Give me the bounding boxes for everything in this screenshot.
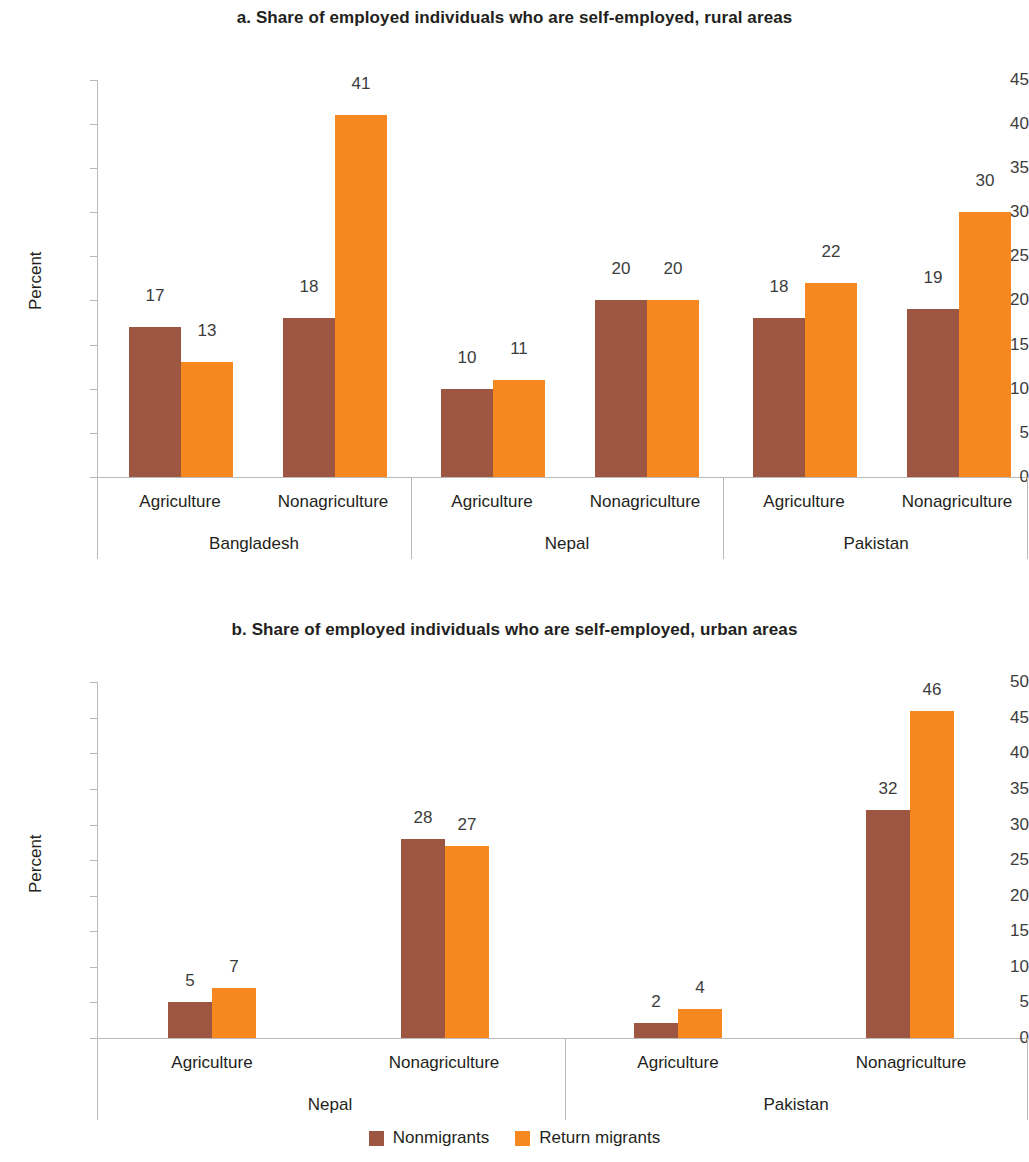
legend-swatch-icon: [515, 1131, 530, 1146]
bar-value-label: 20: [664, 259, 683, 279]
group-separator: [97, 1038, 98, 1120]
bar-nonmigrants: [753, 318, 805, 477]
group-separator: [1027, 477, 1028, 559]
y-tick-mark: [90, 477, 97, 478]
legend-label: Nonmigrants: [393, 1128, 489, 1148]
bar-nonmigrants: [595, 300, 647, 477]
bar-value-label: 46: [923, 680, 942, 700]
bar-nonmigrants: [441, 389, 493, 477]
group-label: Pakistan: [843, 534, 908, 554]
bars-container-a: [0, 0, 1029, 477]
bar-value-label: 2: [651, 992, 660, 1012]
panel-urban: b. Share of employed individuals who are…: [0, 605, 1029, 1105]
bar-return-migrants: [493, 380, 545, 477]
category-label: Nonagriculture: [856, 1053, 967, 1073]
bar-return-migrants: [335, 115, 387, 477]
category-label: Nonagriculture: [278, 492, 389, 512]
bar-nonmigrants: [866, 810, 910, 1038]
bar-nonmigrants: [907, 309, 959, 477]
bar-value-label: 22: [822, 242, 841, 262]
bar-value-label: 13: [198, 321, 217, 341]
bar-return-migrants: [647, 300, 699, 477]
group-separator: [723, 477, 724, 559]
bars-container-b: [0, 605, 1029, 1038]
group-separator: [411, 477, 412, 559]
bar-return-migrants: [212, 988, 256, 1038]
x-axis-baseline-b: [97, 1038, 1028, 1039]
category-label: Agriculture: [763, 492, 844, 512]
bar-value-label: 18: [300, 277, 319, 297]
category-label: Nonagriculture: [590, 492, 701, 512]
group-separator: [565, 1038, 566, 1120]
y-tick-mark: [90, 1038, 97, 1039]
bar-value-label: 32: [879, 779, 898, 799]
group-label: Pakistan: [763, 1095, 828, 1115]
bar-nonmigrants: [634, 1023, 678, 1038]
bar-nonmigrants: [401, 839, 445, 1038]
group-label: Nepal: [308, 1095, 352, 1115]
bar-value-label: 11: [510, 339, 528, 359]
plot-area-b: Percent 0 5 10 15 20 25 30 35 40 45 50: [0, 605, 1029, 1105]
bar-value-label: 4: [695, 978, 704, 998]
legend-swatch-icon: [369, 1131, 384, 1146]
legend-label: Return migrants: [539, 1128, 660, 1148]
bar-value-label: 30: [976, 171, 995, 191]
category-label: Agriculture: [637, 1053, 718, 1073]
bar-value-label: 5: [185, 971, 194, 991]
bar-nonmigrants: [283, 318, 335, 477]
category-label: Agriculture: [171, 1053, 252, 1073]
bar-nonmigrants: [129, 327, 181, 477]
x-axis-baseline-a: [97, 477, 1028, 478]
bar-nonmigrants: [168, 1002, 212, 1038]
bar-value-label: 28: [414, 808, 433, 828]
group-label: Bangladesh: [209, 534, 299, 554]
bar-value-label: 18: [770, 277, 789, 297]
bar-return-migrants: [181, 362, 233, 477]
bar-value-label: 7: [229, 957, 238, 977]
bar-return-migrants: [678, 1009, 722, 1038]
group-label: Nepal: [545, 534, 589, 554]
category-label: Nonagriculture: [902, 492, 1013, 512]
chart-legend: Nonmigrants Return migrants: [0, 1128, 1029, 1148]
panel-rural: a. Share of employed individuals who are…: [0, 0, 1029, 580]
bar-return-migrants: [445, 846, 489, 1038]
bar-value-label: 17: [146, 286, 165, 306]
legend-item-return-migrants: Return migrants: [515, 1128, 660, 1148]
category-label: Agriculture: [139, 492, 220, 512]
group-separator: [1027, 1038, 1028, 1120]
plot-area-a: Percent 0 5 10 15 20 25 30 35 40 45: [0, 0, 1029, 580]
bar-return-migrants: [805, 283, 857, 477]
category-label: Agriculture: [451, 492, 532, 512]
group-separator: [97, 477, 98, 559]
bar-value-label: 10: [458, 348, 477, 368]
bar-value-label: 27: [458, 815, 477, 835]
bar-value-label: 20: [612, 259, 631, 279]
bar-value-label: 19: [924, 268, 943, 288]
category-label: Nonagriculture: [389, 1053, 500, 1073]
legend-item-nonmigrants: Nonmigrants: [369, 1128, 489, 1148]
bar-return-migrants: [959, 212, 1011, 477]
bar-return-migrants: [910, 711, 954, 1038]
bar-value-label: 41: [352, 74, 371, 94]
